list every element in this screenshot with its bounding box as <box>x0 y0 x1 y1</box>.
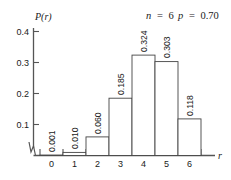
y-tick-label-0.1: 0.1 <box>16 120 29 130</box>
bar-r-2 <box>86 137 109 156</box>
bar-r-1 <box>63 152 86 155</box>
y-axis-break-icon <box>29 142 36 156</box>
annotation-p: p = 0.70 <box>177 10 219 21</box>
annotation-n-symbol: n <box>146 10 151 21</box>
annotation-p-equals: = <box>189 10 195 21</box>
bar-r-3 <box>109 98 132 155</box>
bar-value-label-4: 0.324 <box>139 30 149 52</box>
x-tick-label-6: 6 <box>187 159 192 169</box>
bar-r-4 <box>132 55 155 155</box>
annotation-n: n = 6 <box>146 10 174 21</box>
annotation-p-symbol: p <box>177 10 183 21</box>
x-tick-label-4: 4 <box>141 159 146 169</box>
x-tick-label-0: 0 <box>49 159 54 169</box>
bar-r-6 <box>178 119 201 156</box>
bar-value-label-6: 0.118 <box>185 95 195 116</box>
bar-value-label-0: 0.001 <box>47 130 57 152</box>
annotation-n-value: 6 <box>168 10 173 21</box>
x-tick-label-2: 2 <box>95 159 100 169</box>
binomial-probability-histogram: 0.4 0.3 0.2 0.1 P(r) r 0 1 2 3 4 5 6 <box>0 0 231 180</box>
x-axis-title: r <box>218 150 222 161</box>
bar-value-label-1: 0.010 <box>70 127 80 149</box>
chart-canvas: 0.4 0.3 0.2 0.1 P(r) r 0 1 2 3 4 5 6 <box>0 0 231 180</box>
x-tick-label-1: 1 <box>72 159 77 169</box>
y-tick-label-0.3: 0.3 <box>16 58 29 68</box>
annotation-p-value: 0.70 <box>200 10 218 21</box>
bar-value-label-5: 0.303 <box>162 36 172 58</box>
bar-value-label-3: 0.185 <box>116 73 126 95</box>
y-tick-label-0.2: 0.2 <box>16 89 29 99</box>
annotation-n-equals: = <box>157 10 163 21</box>
bar-r-5 <box>155 62 178 156</box>
y-axis-title: P(r) <box>34 11 52 23</box>
x-tick-label-5: 5 <box>164 159 169 169</box>
y-tick-label-0.4: 0.4 <box>16 27 29 37</box>
x-tick-label-3: 3 <box>118 159 123 169</box>
bar-value-label-2: 0.060 <box>93 112 103 134</box>
